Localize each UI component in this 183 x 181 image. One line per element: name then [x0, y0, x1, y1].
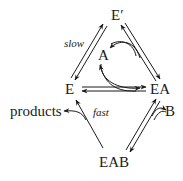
node-e: E: [65, 82, 74, 97]
node-products: products: [10, 104, 62, 119]
label-slow: slow: [64, 38, 84, 49]
node-b: B: [165, 104, 175, 119]
arrow-eab-to-ea: [126, 99, 156, 150]
label-fast: fast: [93, 107, 109, 118]
node-eab: EAB: [99, 155, 129, 170]
reaction-scheme-diagram: E′ A E EA B products EAB slow fast: [0, 0, 183, 181]
arrow-a-bind-bottom: [101, 64, 140, 88]
node-e-prime: E′: [111, 8, 123, 23]
node-ea: EA: [150, 82, 170, 97]
arrow-ea-to-eab: [130, 101, 160, 152]
arrow-b-release: [152, 108, 166, 116]
node-a: A: [98, 48, 109, 63]
arrow-eprime-to-ea: [125, 23, 160, 79]
